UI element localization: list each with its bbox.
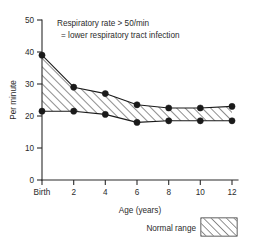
y-tick-label-0: 0 <box>29 176 34 185</box>
data-point <box>229 118 235 124</box>
x-axis-label: Age (years) <box>119 206 162 215</box>
y-tick-label-40: 40 <box>25 48 35 57</box>
y-tick-label-30: 30 <box>25 80 35 89</box>
chart-figure: 50 40 30 20 10 0 Per minute Birth 2 4 6 … <box>0 0 260 249</box>
data-point <box>166 105 172 111</box>
data-point <box>134 119 140 125</box>
annotation-line-1: Respiratory rate > 50/min <box>57 19 150 28</box>
respiratory-rate-chart: 50 40 30 20 10 0 Per minute Birth 2 4 6 … <box>0 0 260 249</box>
data-point <box>102 111 108 117</box>
data-point <box>134 102 140 108</box>
annotation-line-2: = lower respiratory tract infection <box>61 31 180 40</box>
data-point <box>102 91 108 97</box>
legend-label-normal-range: Normal range <box>146 224 196 233</box>
data-point <box>229 103 235 109</box>
data-point <box>71 84 77 90</box>
data-point <box>197 105 203 111</box>
x-tick-label-4: 4 <box>103 188 108 197</box>
x-tick-label-8: 8 <box>166 188 171 197</box>
data-point <box>39 52 45 58</box>
data-point <box>197 118 203 124</box>
y-tick-label-50: 50 <box>25 16 35 25</box>
data-point <box>39 108 45 114</box>
y-axis-label: Per minute <box>9 80 18 120</box>
x-tick-label-6: 6 <box>135 188 140 197</box>
x-tick-label-12: 12 <box>227 188 237 197</box>
data-point <box>71 108 77 114</box>
x-tick-label-birth: Birth <box>34 188 51 197</box>
legend-swatch-hatch <box>202 219 237 236</box>
x-tick-label-2: 2 <box>71 188 76 197</box>
x-tick-label-10: 10 <box>196 188 206 197</box>
y-tick-label-20: 20 <box>25 112 35 121</box>
y-tick-label-10: 10 <box>25 144 35 153</box>
data-point <box>166 118 172 124</box>
